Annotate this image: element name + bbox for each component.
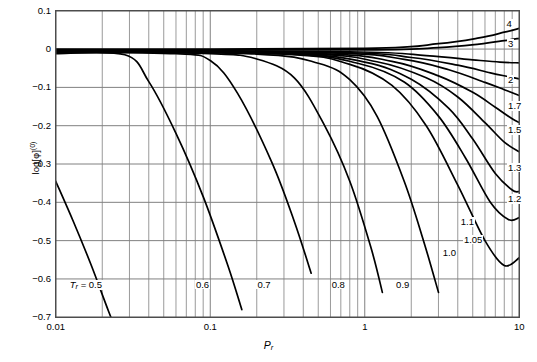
x-axis-ticks: 0.010.1110 bbox=[0, 322, 537, 338]
curve-tr-1.2 bbox=[56, 50, 520, 152]
x-tick-label: 0.1 bbox=[204, 322, 217, 332]
y-tick-label: 0.1 bbox=[38, 6, 51, 16]
y-tick-label: 0 bbox=[46, 44, 51, 54]
x-tick-label: 0.01 bbox=[47, 322, 66, 332]
curve-label-tr-1.2: 1.2 bbox=[507, 194, 522, 204]
curve-tr-1.0 bbox=[56, 51, 520, 266]
curve-label-tr-1.5: 1.5 bbox=[507, 125, 522, 135]
curve-tr-1.3 bbox=[56, 50, 520, 122]
curve-label-tr-1.3: 1.3 bbox=[507, 163, 522, 173]
curve-label-tr-0.5: Tr = 0.5 bbox=[69, 280, 103, 291]
curve-label-tr-3: 3 bbox=[507, 39, 514, 49]
chart-canvas bbox=[0, 0, 537, 362]
curve-label-tr-0.7: 0.7 bbox=[256, 280, 271, 290]
y-tick-label: −0.1 bbox=[32, 83, 51, 93]
curve-label-tr-0.9: 0.9 bbox=[395, 280, 410, 290]
curve-group bbox=[56, 28, 520, 351]
curve-label-tr-1.7: 1.7 bbox=[507, 101, 522, 111]
fugacity-coefficient-chart: 0.10−0.1−0.2−0.3−0.4−0.5−0.6−0.7 0.010.1… bbox=[0, 0, 537, 362]
curve-label-tr-2: 2 bbox=[507, 75, 514, 85]
x-tick-label: 10 bbox=[514, 322, 525, 332]
curve-label-tr-1.1: 1.1 bbox=[460, 217, 475, 227]
curve-tr-0.7 bbox=[56, 52, 311, 273]
y-tick-label: −0.6 bbox=[32, 274, 51, 284]
y-axis-title: log[φ](0) bbox=[29, 118, 41, 198]
x-tick-label: 1 bbox=[362, 322, 367, 332]
y-tick-label: −0.5 bbox=[32, 236, 51, 246]
curve-label-tr-1.0: 1.0 bbox=[442, 248, 457, 258]
curve-label-tr-0.8: 0.8 bbox=[331, 280, 346, 290]
curve-tr-1.05 bbox=[56, 51, 520, 221]
curve-label-tr-0.6: 0.6 bbox=[195, 280, 210, 290]
y-tick-label: −0.4 bbox=[32, 198, 51, 208]
y-axis-ticks: 0.10−0.1−0.2−0.3−0.4−0.5−0.6−0.7 bbox=[0, 0, 51, 362]
curve-label-tr-1.05: 1.05 bbox=[463, 235, 484, 245]
x-axis-title: Pr bbox=[0, 340, 537, 352]
curve-label-tr-4: 4 bbox=[506, 19, 513, 29]
